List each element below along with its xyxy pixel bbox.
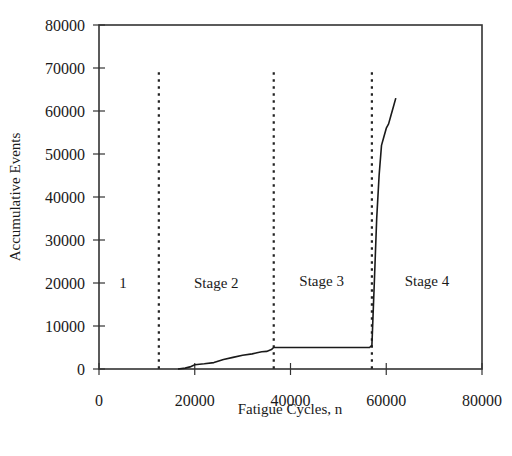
annotations: 1Stage 2Stage 3Stage 4 — [119, 273, 450, 291]
x-tick-label: 60000 — [366, 392, 406, 409]
chart: 0200004000060000800000100002000030000400… — [0, 0, 512, 456]
y-tick-label: 30000 — [45, 232, 85, 249]
y-tick-label: 0 — [77, 361, 85, 378]
y-tick-label: 50000 — [45, 146, 85, 163]
x-tick-label: 80000 — [462, 392, 502, 409]
plot-frame — [99, 25, 482, 369]
x-tick-label: 0 — [95, 392, 103, 409]
y-tick-label: 80000 — [45, 17, 85, 34]
stage-boundaries — [159, 72, 372, 369]
series-line — [178, 98, 396, 369]
series-group — [178, 98, 396, 369]
stage-label: Stage 2 — [194, 275, 239, 291]
stage-label: Stage 3 — [299, 273, 344, 289]
stage-label: Stage 4 — [405, 273, 450, 289]
x-axis-label: Fatigue Cycles, n — [238, 401, 343, 417]
x-tick-label: 20000 — [175, 392, 215, 409]
y-tick-label: 20000 — [45, 275, 85, 292]
y-tick-label: 60000 — [45, 103, 85, 120]
y-tick-label: 40000 — [45, 189, 85, 206]
y-axis-label: Accumulative Events — [7, 132, 23, 261]
y-tick-label: 70000 — [45, 60, 85, 77]
y-tick-label: 10000 — [45, 318, 85, 335]
stage-label: 1 — [119, 275, 127, 291]
